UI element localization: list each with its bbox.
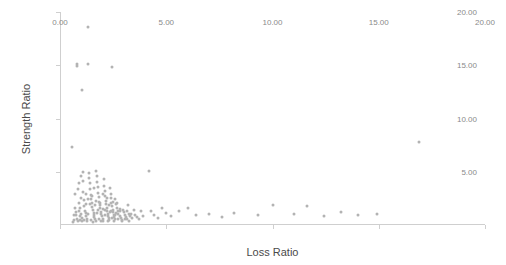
data-point (87, 63, 90, 66)
data-point (100, 220, 103, 223)
data-point (86, 198, 89, 201)
x-tick-label: 20.00 (475, 18, 495, 27)
data-point (103, 184, 106, 187)
data-point (88, 182, 91, 185)
data-point (94, 220, 97, 223)
data-point (141, 215, 144, 218)
data-point (91, 220, 94, 223)
data-point (233, 211, 236, 214)
x-tick-mark (60, 225, 61, 229)
data-point (220, 216, 223, 219)
data-point (83, 218, 86, 221)
data-point (82, 198, 85, 201)
data-point (322, 214, 325, 217)
data-point (81, 179, 84, 182)
y-tick-mark (56, 119, 60, 120)
data-point (95, 212, 98, 215)
data-point (137, 218, 140, 221)
data-point (99, 202, 102, 205)
data-point (112, 219, 115, 222)
data-point (87, 212, 90, 215)
data-point (131, 216, 134, 219)
data-point (118, 208, 121, 211)
data-point (108, 187, 111, 190)
x-tick-label: 5.00 (158, 18, 174, 27)
data-point (93, 203, 96, 206)
data-point (156, 216, 159, 219)
data-point (165, 212, 168, 215)
data-point (111, 65, 114, 68)
data-point (87, 171, 90, 174)
data-point (77, 201, 80, 204)
data-point (107, 204, 110, 207)
data-point (150, 210, 153, 213)
data-point (114, 213, 117, 216)
data-point (102, 178, 105, 181)
data-point (79, 212, 82, 215)
data-point (271, 203, 274, 206)
y-tick-label: 10.00 (457, 114, 477, 123)
y-tick-label: 5.00 (461, 167, 477, 176)
data-point (70, 146, 73, 149)
data-point (78, 207, 81, 210)
data-point (95, 200, 98, 203)
data-point (127, 203, 130, 206)
data-point (125, 209, 128, 212)
x-tick-label: 10.00 (262, 18, 282, 27)
data-point (86, 25, 89, 28)
data-point (82, 170, 85, 173)
y-tick-label: 20.00 (457, 8, 477, 17)
y-axis-line (60, 12, 61, 225)
x-tick-label: 15.00 (369, 18, 389, 27)
data-point (152, 213, 155, 216)
data-point (81, 88, 84, 91)
data-point (95, 169, 98, 172)
y-tick-mark (56, 172, 60, 173)
data-point (74, 210, 77, 213)
data-point (292, 212, 295, 215)
data-point (101, 193, 104, 196)
data-point (178, 209, 181, 212)
scatter-chart: Strength Ratio 0.005.0010.0015.0020.00 5… (0, 0, 506, 265)
data-point (207, 212, 210, 215)
x-tick-mark (166, 225, 167, 229)
data-point (195, 214, 198, 217)
data-point (123, 218, 126, 221)
data-point (112, 200, 115, 203)
data-point (76, 65, 79, 68)
data-point (110, 209, 113, 212)
data-point (103, 189, 106, 192)
data-point (88, 176, 91, 179)
y-axis-title-container: Strength Ratio (0, 12, 20, 225)
y-tick-label: 15.00 (457, 61, 477, 70)
data-point (104, 213, 107, 216)
data-point (72, 218, 75, 221)
data-point (375, 213, 378, 216)
data-point (305, 204, 308, 207)
data-point (161, 207, 164, 210)
data-point (97, 196, 100, 199)
data-point (90, 195, 93, 198)
y-tick-mark (56, 65, 60, 66)
data-point (89, 188, 92, 191)
data-point (95, 175, 98, 178)
data-point (109, 192, 112, 195)
data-point (148, 170, 151, 173)
data-point (96, 186, 99, 189)
data-point (77, 220, 80, 223)
data-point (105, 196, 108, 199)
x-tick-label: 0.00 (52, 18, 68, 27)
data-point (77, 187, 80, 190)
y-axis-title: Strength Ratio (20, 49, 32, 189)
data-point (103, 208, 106, 211)
x-axis-title: Loss Ratio (60, 246, 485, 258)
data-point (97, 209, 100, 212)
data-point (104, 199, 107, 202)
data-point (78, 181, 81, 184)
data-point (73, 192, 76, 195)
y-tick-mark (56, 12, 60, 13)
data-point (186, 207, 189, 210)
data-point (139, 210, 142, 213)
data-point (97, 191, 100, 194)
data-point (129, 213, 132, 216)
